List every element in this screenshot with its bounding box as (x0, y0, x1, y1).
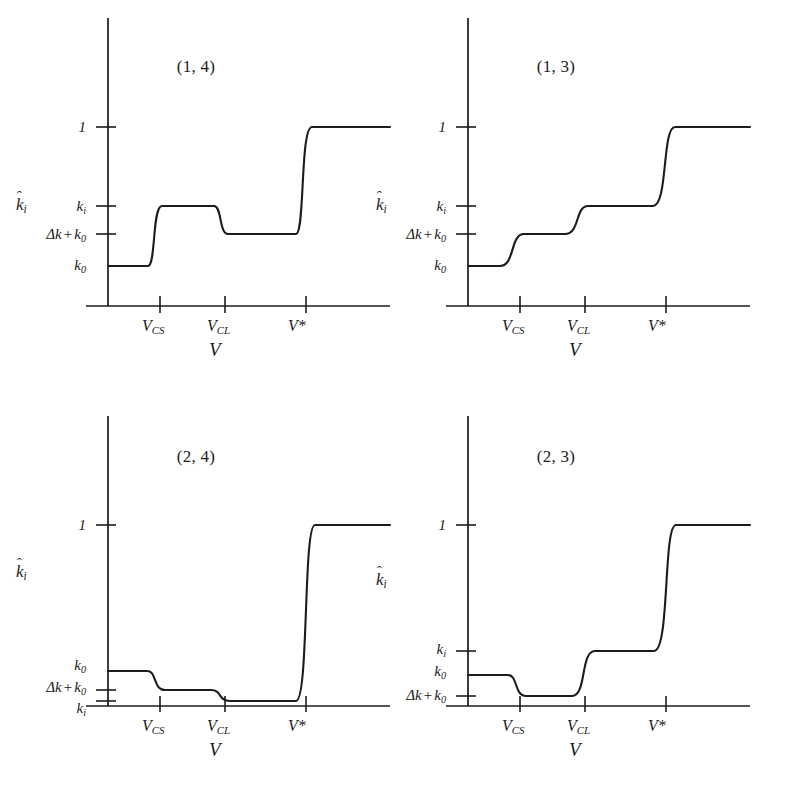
chart-panel-1-4: (1, 4) ˆki 1 ki Δk + k0 k0 VCS VCL V* V (0, 0, 392, 392)
chart-panel-2-4: (2, 4) ˆki 1 k0 Δk + k0 ki VCS VCL V* V (0, 390, 392, 782)
data-curve (468, 127, 750, 266)
plot-area-1-3 (360, 0, 752, 392)
chart-panel-1-3: (1, 3) ˆki 1 ki Δk + k0 k0 VCS VCL V* V (360, 0, 752, 392)
chart-panel-2-3: (2, 3) ˆki 1 ki k0 Δk + k0 VCS VCL V* V (360, 390, 752, 782)
plot-area-1-4 (0, 0, 392, 392)
plot-area-2-3 (360, 390, 752, 782)
figure-canvas: (1, 4) ˆki 1 ki Δk + k0 k0 VCS VCL V* V (0, 0, 785, 785)
data-curve (468, 525, 750, 696)
plot-area-2-4 (0, 390, 392, 782)
data-curve (108, 525, 390, 701)
data-curve (108, 127, 390, 266)
